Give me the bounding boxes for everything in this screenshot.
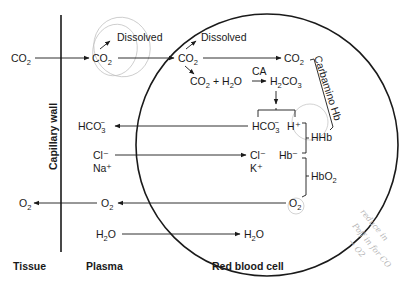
svg-text:CO2: CO2 xyxy=(11,52,31,67)
svg-text:CO2: CO2 xyxy=(92,52,112,67)
plasma-bicarbonate: HCO3− xyxy=(78,118,106,135)
svg-text:CO2+H2O: CO2+H2O xyxy=(190,75,242,90)
rbc-bicarbonate: HCO3− xyxy=(252,118,280,135)
rbc-dissolved-label: Dissolved xyxy=(201,31,247,43)
dissociation-bracket xyxy=(258,108,295,117)
tissue-co2: CO2 xyxy=(11,52,31,67)
svg-text:O2: O2 xyxy=(289,197,301,212)
hbo2-bracket xyxy=(302,158,309,197)
svg-text:O2: O2 xyxy=(19,197,31,212)
carbonic-anhydrase-label: CA xyxy=(252,65,267,77)
arrow-co2-to-reaction xyxy=(185,66,194,74)
carbonic-acid: H2CO3 xyxy=(270,75,302,90)
svg-text:O2: O2 xyxy=(101,197,113,212)
arrow-rbc-co2-dissolved xyxy=(186,41,196,49)
plasma-sodium: Na⁺ xyxy=(93,162,112,174)
hbo2-label: HbO2 xyxy=(311,170,337,185)
rbc-co2-carbamino-source: CO2 xyxy=(284,52,304,67)
arrow-plasma-co2-dissolved xyxy=(100,41,110,49)
svg-text:CO2: CO2 xyxy=(178,52,198,67)
rbc-hydrogen-ion: H⁺ xyxy=(287,120,301,132)
rbc-potassium: K⁺ xyxy=(250,162,263,174)
rbc-chloride: Cl⁻ xyxy=(250,149,266,161)
plasma-chloride: Cl⁻ xyxy=(93,149,109,161)
svg-text:CO2: CO2 xyxy=(284,52,304,67)
svg-text:H2CO3: H2CO3 xyxy=(270,75,302,90)
svg-text:H2O: H2O xyxy=(244,228,264,243)
svg-text:HCO3−: HCO3− xyxy=(252,118,280,135)
plasma-o2: O2 xyxy=(101,197,113,212)
handwritten-annotation: reduce in Poff in for CO → O2 xyxy=(346,208,393,270)
svg-text:H2O: H2O xyxy=(96,228,116,243)
rbc-hb-minus: Hb⁻ xyxy=(279,149,298,161)
rbc-o2: O2 xyxy=(289,197,301,212)
reaction-co2-plus-h2o: CO2+H2O xyxy=(190,75,242,90)
plasma-region-label: Plasma xyxy=(86,260,123,272)
carbamino-hb-label: Carbamino Hb xyxy=(312,54,344,122)
plasma-co2: CO2 xyxy=(92,52,112,67)
rbc-region-label: Red blood cell xyxy=(212,260,284,272)
tissue-o2: O2 xyxy=(19,197,31,212)
plasma-dissolved-label: Dissolved xyxy=(117,31,163,43)
svg-text:HbO2: HbO2 xyxy=(311,170,337,185)
co2-transport-diagram: Capillary wall CO2 CO2 Dissolved CO2 Dis… xyxy=(0,0,408,285)
hhb-label: HHb xyxy=(311,131,332,143)
capillary-wall-label: Capillary wall xyxy=(47,103,59,170)
hhb-bracket xyxy=(302,123,309,153)
rbc-co2: CO2 xyxy=(178,52,198,67)
rbc-water: H2O xyxy=(244,228,264,243)
svg-text:HCO3−: HCO3− xyxy=(78,118,106,135)
tissue-region-label: Tissue xyxy=(13,260,46,272)
plasma-water: H2O xyxy=(96,228,116,243)
